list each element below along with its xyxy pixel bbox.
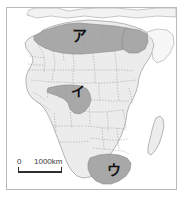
scale-bar-line <box>18 171 62 173</box>
region-label-gulf-of-guinea: イ <box>71 83 85 99</box>
scale-bar-tick-right <box>61 167 62 173</box>
scale-bar-labels: 0 1000km <box>17 157 93 168</box>
region-label-north: ア <box>72 27 87 45</box>
scale-bar-distance-label: 1000km <box>34 157 62 166</box>
scale-bar: 0 1000km <box>17 157 93 181</box>
map-frame: ア イ ウ 0 1000km <box>6 7 177 190</box>
scale-bar-zero-label: 0 <box>17 157 21 166</box>
figure-root: ア イ ウ 0 1000km <box>0 0 183 202</box>
scale-bar-tick-left <box>18 167 19 173</box>
region-label-south: ウ <box>107 162 121 178</box>
southern-europe <box>27 8 176 18</box>
madagascar-landmass <box>148 116 164 155</box>
